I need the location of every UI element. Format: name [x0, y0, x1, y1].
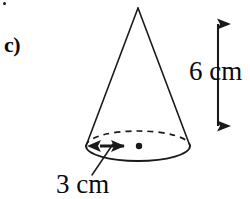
part-label: c) — [4, 34, 20, 56]
cone-right-slant-line — [138, 8, 190, 146]
cone-left-slant-line — [86, 8, 138, 146]
radius-label: 3 cm — [56, 171, 109, 198]
cone-figure: c) 6 cm 3 cm — [0, 0, 250, 199]
cone-diagram-svg — [0, 0, 250, 199]
base-center-dot — [136, 143, 142, 149]
height-label: 6 cm — [189, 58, 242, 85]
